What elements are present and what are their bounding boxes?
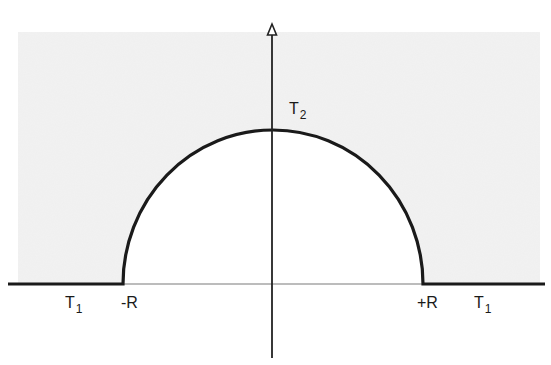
label-plus-r-text: +R: [417, 294, 438, 311]
semicircle-boundary-diagram: T2 T1 -R +R T1: [0, 0, 551, 365]
label-t1-left: T1: [65, 295, 82, 315]
diagram-canvas: [0, 0, 551, 365]
label-t2: T2: [289, 101, 306, 121]
label-t2-base: T: [289, 100, 299, 117]
label-t1-left-base: T: [65, 294, 75, 311]
label-t2-subscript: 2: [300, 108, 307, 122]
label-t1-right: T1: [474, 295, 491, 315]
label-t1-left-subscript: 1: [76, 302, 83, 316]
label-minus-r: -R: [121, 295, 138, 311]
arrow-up-icon: [268, 24, 277, 35]
label-t1-right-base: T: [474, 294, 484, 311]
label-minus-r-text: -R: [121, 294, 138, 311]
label-plus-r: +R: [417, 295, 438, 311]
label-t1-right-subscript: 1: [485, 302, 492, 316]
